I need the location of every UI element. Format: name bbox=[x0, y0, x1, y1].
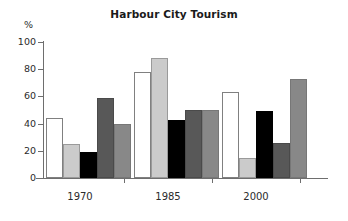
bar-chart: Harbour City Tourism % 100 80 60 40 20 0… bbox=[0, 0, 348, 221]
chart-title: Harbour City Tourism bbox=[0, 8, 348, 20]
bar-2000-series-5 bbox=[290, 79, 307, 178]
bar-1985-series-3 bbox=[168, 120, 185, 178]
bar-2000-series-4 bbox=[273, 143, 290, 178]
bar-1985-series-4 bbox=[185, 110, 202, 178]
bar-2000-series-1 bbox=[222, 92, 239, 178]
y-axis-unit-label: % bbox=[24, 19, 33, 30]
x-tick-label-2000: 2000 bbox=[226, 191, 286, 202]
x-tick-0 bbox=[124, 178, 125, 183]
x-tick-label-1985: 1985 bbox=[138, 191, 198, 202]
bar-1970-series-3 bbox=[80, 152, 97, 178]
y-tick-label-100: 100 bbox=[0, 36, 36, 47]
x-tick-2 bbox=[300, 178, 301, 183]
y-tick-label-20: 20 bbox=[0, 145, 36, 156]
y-tick-label-60: 60 bbox=[0, 90, 36, 101]
x-axis-line bbox=[36, 178, 328, 179]
y-tick-label-0: 0 bbox=[0, 172, 36, 183]
bar-1970-series-2 bbox=[63, 144, 80, 178]
bar-2000-series-2 bbox=[239, 158, 256, 178]
x-tick-1 bbox=[212, 178, 213, 183]
bar-1985-series-1 bbox=[134, 72, 151, 178]
bar-2000-series-3 bbox=[256, 111, 273, 178]
x-tick-label-1970: 1970 bbox=[50, 191, 110, 202]
plot-area bbox=[44, 42, 328, 178]
y-tick-label-40: 40 bbox=[0, 118, 36, 129]
bar-1970-series-1 bbox=[46, 118, 63, 178]
y-tick-0 bbox=[38, 178, 44, 179]
bar-1985-series-2 bbox=[151, 58, 168, 178]
bar-1985-series-5 bbox=[202, 110, 219, 178]
bar-1970-series-5 bbox=[114, 124, 131, 178]
y-tick-label-80: 80 bbox=[0, 63, 36, 74]
bar-1970-series-4 bbox=[97, 98, 114, 178]
